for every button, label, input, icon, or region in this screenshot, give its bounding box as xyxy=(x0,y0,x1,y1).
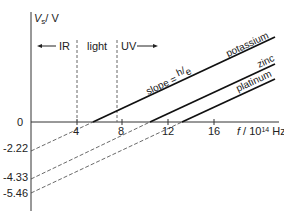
uv-arrow-icon xyxy=(137,44,158,48)
platinum-label: platinum xyxy=(234,68,273,94)
region-visible-label: light xyxy=(87,40,107,52)
potassium-label: potassium xyxy=(224,30,270,59)
x-axis-label: f / 1014 Hz xyxy=(237,125,284,137)
y-axis-label: Vs/ V xyxy=(34,12,59,26)
x-tick-4: 4 xyxy=(73,125,79,137)
x-tick-8: 8 xyxy=(118,125,124,137)
photoelectric-chart: Vs/ V IR light UV slope = h/e potassium … xyxy=(0,0,284,218)
zinc-label: zinc xyxy=(255,52,276,69)
y-tick-neg2-22: -2.22 xyxy=(3,142,28,154)
y-tick-0: 0 xyxy=(17,116,23,128)
ir-arrow-icon xyxy=(37,44,56,48)
region-uv-label: UV xyxy=(121,40,137,52)
zinc-extrapolation xyxy=(31,122,150,179)
y-tick-neg4-33: -4.33 xyxy=(3,171,28,183)
slope-annotation: slope = h/e xyxy=(143,62,194,97)
platinum-extrapolation xyxy=(31,122,182,193)
region-ir-label: IR xyxy=(59,40,70,52)
y-tick-neg5-46: -5.46 xyxy=(3,187,28,199)
x-tick-16: 16 xyxy=(208,125,220,137)
x-tick-12: 12 xyxy=(162,125,174,137)
potassium-extrapolation xyxy=(31,122,93,151)
